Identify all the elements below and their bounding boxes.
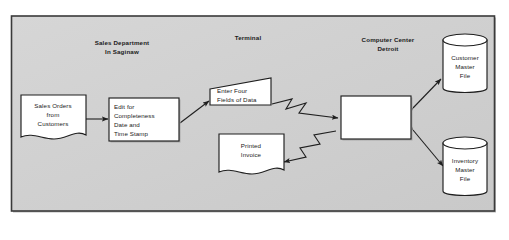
inventory-master-file-top-ellipse <box>443 137 487 149</box>
inventory-master-file-line-3: File <box>460 175 471 182</box>
node-edit-process[interactable]: Edit for Completeness Date and Time Stam… <box>109 98 181 143</box>
edit-process-line-4: Time Stamp <box>114 130 149 137</box>
zone-heading-terminal: Terminal <box>235 34 262 41</box>
node-central-processor[interactable] <box>341 96 413 141</box>
printed-invoice-line-2: Invoice <box>241 151 262 158</box>
inventory-master-file-line-1: Inventory <box>452 157 479 164</box>
node-printed-invoice[interactable]: Printed Invoice <box>219 134 284 174</box>
sales-orders-line-1: Sales Orders <box>34 102 71 109</box>
zone-label-terminal-line1: Terminal <box>235 34 262 41</box>
customer-master-file-line-2: Master <box>455 63 475 70</box>
printed-invoice-line-1: Printed <box>241 142 262 149</box>
sales-orders-line-3: Customers <box>38 120 69 127</box>
edit-process-line-1: Edit for <box>114 103 134 110</box>
zone-label-sales-line2: In Saginaw <box>105 48 139 55</box>
enter-four-fields-line-1: Enter Four <box>217 87 247 94</box>
inventory-master-file-line-2: Master <box>455 166 475 173</box>
node-sales-orders[interactable]: Sales Orders from Customers <box>21 95 86 139</box>
customer-master-file-line-1: Customer <box>451 54 479 61</box>
customer-master-file-line-3: File <box>460 72 471 79</box>
zone-label-center-line1: Computer Center <box>362 36 415 43</box>
sales-orders-line-2: from <box>47 111 60 118</box>
customer-master-file-top-ellipse <box>443 34 487 46</box>
edit-process-line-3: Date and <box>114 121 140 128</box>
zone-label-center-line2: Detroit <box>378 45 399 52</box>
central-processor-shape <box>341 96 411 139</box>
enter-four-fields-line-2: Fields of Data <box>217 96 257 103</box>
node-inventory-master-file[interactable]: Inventory Master File <box>443 137 487 196</box>
node-customer-master-file[interactable]: Customer Master File <box>443 34 487 93</box>
edit-process-line-2: Completeness <box>114 112 155 119</box>
flowchart-figure: Sales Department In Saginaw Terminal Com… <box>0 0 509 240</box>
diagram-canvas: Sales Department In Saginaw Terminal Com… <box>0 0 509 240</box>
zone-label-sales-line1: Sales Department <box>95 39 150 46</box>
